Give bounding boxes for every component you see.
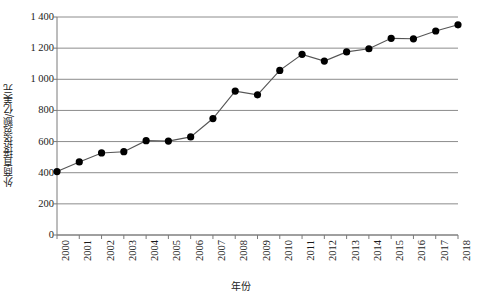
x-tick-label: 2000 — [61, 240, 71, 274]
x-axis-tick-labels: 2000200120022003200420052006200720082009… — [0, 0, 482, 299]
x-tick-label: 2011 — [306, 240, 316, 274]
x-tick-label: 2015 — [395, 240, 405, 274]
x-tick-label: 2017 — [440, 240, 450, 274]
x-axis-title: 年份 — [0, 278, 482, 293]
x-tick-label: 2012 — [328, 240, 338, 274]
x-tick-label: 2006 — [195, 240, 205, 274]
x-tick-label: 2004 — [150, 240, 160, 274]
x-tick-label: 2001 — [83, 240, 93, 274]
x-tick-label: 2009 — [262, 240, 272, 274]
x-tick-label: 2014 — [373, 240, 383, 274]
x-tick-label: 2002 — [106, 240, 116, 274]
x-tick-label: 2013 — [351, 240, 361, 274]
x-tick-label: 2003 — [128, 240, 138, 274]
x-tick-label: 2016 — [417, 240, 427, 274]
x-tick-label: 2008 — [239, 240, 249, 274]
chart-container: 外商直接投资额/亿美元 02004006008001 0001 2001 400… — [0, 0, 482, 299]
x-tick-label: 2007 — [217, 240, 227, 274]
x-tick-label: 2018 — [462, 240, 472, 274]
x-tick-label: 2010 — [284, 240, 294, 274]
x-tick-label: 2005 — [172, 240, 182, 274]
